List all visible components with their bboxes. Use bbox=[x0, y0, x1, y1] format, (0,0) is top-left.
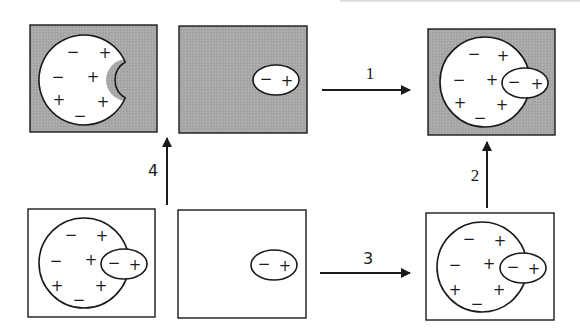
minus-charge: − bbox=[52, 68, 65, 86]
minus-charge: − bbox=[74, 107, 87, 125]
plus-charge: + bbox=[454, 94, 467, 112]
panel-top-right: − + − + + + − − + bbox=[428, 29, 555, 135]
plus-charge: + bbox=[85, 251, 98, 269]
plus-charge: + bbox=[449, 281, 462, 299]
bound-molecule: − + bbox=[101, 249, 147, 279]
minus-charge: − bbox=[67, 43, 80, 61]
minus-charge: − bbox=[73, 291, 86, 309]
plus-charge: + bbox=[494, 232, 507, 250]
minus-charge: − bbox=[108, 254, 121, 272]
plus-charge: + bbox=[493, 281, 506, 299]
plus-charge: + bbox=[483, 255, 496, 273]
plus-charge: + bbox=[279, 257, 292, 275]
arrow-label: 3 bbox=[363, 249, 373, 268]
plus-charge: + bbox=[497, 47, 510, 65]
minus-charge: − bbox=[449, 256, 462, 274]
plus-charge: + bbox=[281, 72, 294, 90]
arrow-4: 4 bbox=[148, 138, 167, 205]
plus-charge: + bbox=[51, 277, 64, 295]
panel-bottom-right: − + − + + + − − + bbox=[426, 213, 554, 320]
arrow-label: 2 bbox=[471, 166, 480, 185]
minus-charge: − bbox=[453, 71, 466, 89]
plus-charge: + bbox=[531, 75, 544, 93]
plus-charge: + bbox=[53, 91, 66, 109]
bound-molecule: − + bbox=[502, 68, 548, 98]
minus-charge: − bbox=[468, 45, 481, 63]
panel-bottom-left: − + − + + + − − + bbox=[28, 209, 155, 317]
plus-charge: + bbox=[528, 260, 541, 278]
arrow-label: 1 bbox=[366, 64, 375, 83]
minus-charge: − bbox=[507, 258, 520, 276]
arrow-2: 2 bbox=[471, 142, 487, 208]
minus-charge: − bbox=[65, 226, 78, 244]
minus-charge: − bbox=[50, 252, 63, 270]
plus-charge: + bbox=[129, 256, 142, 274]
diagram-svg: − + − + + + − − + − + bbox=[0, 0, 580, 335]
molecule: − + bbox=[251, 250, 297, 280]
plus-charge: + bbox=[496, 96, 509, 114]
plus-charge: + bbox=[95, 277, 108, 295]
minus-charge: − bbox=[508, 73, 521, 91]
minus-charge: − bbox=[260, 70, 273, 88]
arrow-3: 3 bbox=[320, 249, 410, 274]
panel-bottom-middle: − + bbox=[178, 210, 306, 318]
bound-molecule: − + bbox=[500, 253, 546, 283]
minus-charge: − bbox=[258, 255, 271, 273]
arrow-label: 4 bbox=[148, 161, 158, 180]
plus-charge: + bbox=[97, 93, 110, 111]
arrow-1: 1 bbox=[322, 64, 410, 91]
panel-top-middle: − + bbox=[179, 26, 307, 133]
plus-charge: + bbox=[486, 71, 499, 89]
plus-charge: + bbox=[99, 44, 112, 62]
plus-charge: + bbox=[87, 68, 100, 86]
minus-charge: − bbox=[474, 109, 487, 127]
panel-top-left: − + − + + + − bbox=[30, 25, 157, 132]
plus-charge: + bbox=[96, 227, 109, 245]
minus-charge: − bbox=[463, 230, 476, 248]
molecule: − + bbox=[253, 65, 299, 95]
minus-charge: − bbox=[471, 295, 484, 313]
diagram-canvas: − + − + + + − − + − + bbox=[0, 0, 580, 335]
